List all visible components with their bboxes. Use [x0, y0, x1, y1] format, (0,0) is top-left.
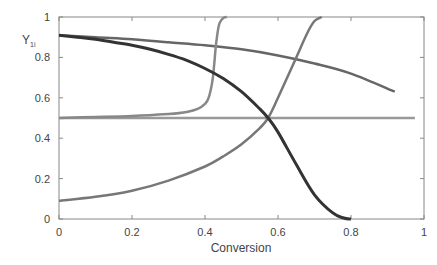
- y-tick-label: 1: [44, 11, 50, 23]
- y-axis-title-main: Y: [22, 33, 30, 47]
- series-curve-gray-slow-decrease: [59, 35, 395, 91]
- y-axis-title: Y1i: [22, 33, 36, 48]
- axis-tick-labels: 00.20.40.60.8100.20.40.60.81: [35, 11, 427, 238]
- x-tick-label: 0.2: [124, 226, 139, 238]
- x-tick-label: 0: [56, 226, 62, 238]
- y-tick-label: 0: [44, 213, 50, 225]
- y-axis-title-subscript: 1i: [30, 41, 36, 48]
- x-tick-label: 1: [421, 226, 427, 238]
- y-tick-label: 0.2: [35, 173, 50, 185]
- y-tick-label: 0.8: [35, 51, 50, 63]
- x-tick-label: 0.8: [343, 226, 358, 238]
- data-series: [59, 17, 415, 219]
- y-tick-label: 0.6: [35, 92, 50, 104]
- x-tick-label: 0.6: [270, 226, 285, 238]
- line-chart: 00.20.40.60.8100.20.40.60.81 Conversion …: [0, 0, 437, 265]
- x-axis-title: Conversion: [211, 241, 272, 255]
- y-tick-label: 0.4: [35, 132, 50, 144]
- x-tick-label: 0.4: [197, 226, 212, 238]
